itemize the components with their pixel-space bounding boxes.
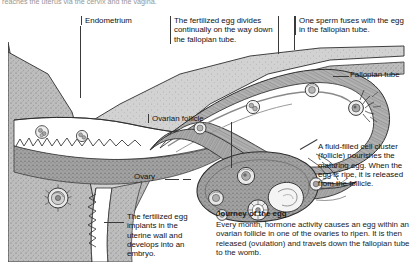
callout-endometrium: Endometrium [81, 16, 163, 25]
leader-ovary-2 [183, 179, 191, 180]
callout-egg-divides: The fertilized egg divides continually o… [170, 16, 282, 44]
callout-sperm-fuses: One sperm fuses with the egg in the fall… [295, 16, 411, 35]
callout-fallopian-tube: Fallopian tube [350, 70, 412, 79]
journey-title: Journey of the egg [216, 209, 416, 219]
leader-ovarian-follicle [231, 122, 232, 168]
running-head: reaches the uterus via the cervix and th… [2, 0, 302, 7]
callout-egg-implants: The fertilized egg implants in the uteri… [127, 212, 201, 258]
leader-endometrium-tip [80, 76, 81, 98]
leader-fallopian-tube [333, 76, 349, 77]
journey-body: Every month, hormone activity causes an … [216, 220, 416, 258]
callout-ovarian-follicle: Ovarian follicle [148, 114, 234, 123]
leader-egg-implants [104, 222, 124, 223]
callout-fluid-filled-cluster: A fluid-filled cell cluster (follicle) n… [318, 142, 414, 188]
illustration-page: reaches the uterus via the cervix and th… [0, 0, 417, 278]
callout-ovary: Ovary [134, 172, 178, 181]
journey-of-the-egg-block: Journey of the egg Every month, hormone … [216, 209, 416, 258]
leader-endometrium [80, 26, 81, 76]
